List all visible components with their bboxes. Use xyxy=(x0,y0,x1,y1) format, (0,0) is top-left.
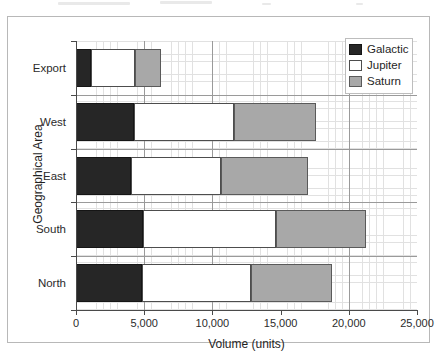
y-tick-top xyxy=(71,41,76,42)
legend-label-jupiter: Jupiter xyxy=(367,59,402,72)
x-tick-20000 xyxy=(349,310,350,315)
bar-segment-west-jupiter[interactable] xyxy=(134,103,234,141)
chart-figure-frame: 0 5,000 10,000 15,000 20,000 25,000 Expo… xyxy=(7,16,430,343)
x-tick-label-15000: 15,000 xyxy=(264,317,298,330)
legend-swatch-saturn-icon xyxy=(349,76,362,87)
x-axis-title: Volume (units) xyxy=(76,337,417,351)
bar-segment-export-jupiter[interactable] xyxy=(91,49,135,87)
bar-segment-export-saturn[interactable] xyxy=(135,49,162,87)
legend-item-saturn[interactable]: Saturn xyxy=(349,74,410,89)
x-tick-label-10000: 10,000 xyxy=(196,317,230,330)
y-tick-1 xyxy=(71,95,76,96)
bar-segment-north-jupiter[interactable] xyxy=(142,264,251,302)
x-tick-25000 xyxy=(417,310,418,315)
y-axis-line xyxy=(76,41,77,310)
y-tick-4 xyxy=(71,256,76,257)
bar-segment-west-galactic[interactable] xyxy=(76,103,134,141)
legend-swatch-galactic-icon xyxy=(349,44,362,55)
bar-segment-north-saturn[interactable] xyxy=(251,264,333,302)
x-tick-label-25000: 25,000 xyxy=(400,317,434,330)
bar-segment-east-jupiter[interactable] xyxy=(131,157,221,195)
x-tick-label-5000: 5,000 xyxy=(130,317,158,330)
category-separator xyxy=(76,149,417,150)
bar-segment-export-galactic[interactable] xyxy=(76,49,91,87)
y-tick-label-east: East xyxy=(43,169,66,182)
scan-artifact-strip xyxy=(0,0,437,14)
bar-segment-south-jupiter[interactable] xyxy=(143,210,276,248)
x-tick-10000 xyxy=(212,310,213,315)
legend-label-saturn: Saturn xyxy=(367,75,401,88)
x-axis-line xyxy=(76,310,417,311)
y-tick-3 xyxy=(71,202,76,203)
x-tick-15000 xyxy=(281,310,282,315)
y-tick-bottom xyxy=(71,310,76,311)
y-tick-2 xyxy=(71,149,76,150)
bar-segment-west-saturn[interactable] xyxy=(234,103,316,141)
category-separator xyxy=(76,202,417,203)
bar-segment-south-galactic[interactable] xyxy=(76,210,143,248)
chart-legend[interactable]: Galactic Jupiter Saturn xyxy=(345,38,413,94)
bar-segment-south-saturn[interactable] xyxy=(276,210,367,248)
legend-item-galactic[interactable]: Galactic xyxy=(349,42,410,57)
legend-swatch-jupiter-icon xyxy=(349,60,362,71)
bar-segment-east-galactic[interactable] xyxy=(76,157,131,195)
x-tick-label-20000: 20,000 xyxy=(332,317,366,330)
category-separator xyxy=(76,95,417,96)
bar-segment-north-galactic[interactable] xyxy=(76,264,142,302)
x-tick-0 xyxy=(76,310,77,315)
x-tick-label-0: 0 xyxy=(73,317,79,330)
legend-label-galactic: Galactic xyxy=(367,43,409,56)
legend-item-jupiter[interactable]: Jupiter xyxy=(349,58,410,73)
category-separator xyxy=(76,256,417,257)
y-axis-title: Geographical Area xyxy=(31,64,45,284)
x-tick-5000 xyxy=(144,310,145,315)
bar-segment-east-saturn[interactable] xyxy=(221,157,308,195)
